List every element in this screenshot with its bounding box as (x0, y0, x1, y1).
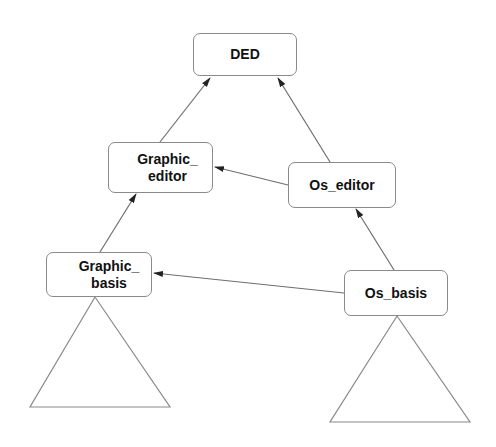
node-graphic-basis: Graphic_ basis (46, 252, 152, 297)
node-graphic-editor: Graphic_ editor (108, 142, 213, 193)
node-graphic-basis-label: Graphic_ basis (59, 258, 140, 292)
edge-os-basis-to-os-editor (356, 209, 394, 270)
edge-os-basis-to-graphic-basis (154, 273, 344, 293)
node-ded: DED (193, 33, 297, 76)
edge-os-editor-to-ded (278, 78, 330, 162)
node-ded-label: DED (230, 46, 260, 63)
edge-os-editor-to-graphic-editor (215, 167, 288, 185)
edge-graphic-basis-to-graphic-editor (100, 194, 136, 252)
node-graphic-editor-label: Graphic_ editor (123, 151, 198, 185)
node-os-basis: Os_basis (344, 270, 448, 316)
subtree-triangle-graphic-basis (30, 297, 170, 407)
diagram: DED Graphic_ editor Os_editor Graphic_ b… (0, 0, 496, 447)
subtree-triangle-os-basis (330, 316, 470, 422)
edge-graphic-editor-to-ded (160, 78, 210, 142)
node-os-basis-label: Os_basis (365, 285, 427, 302)
node-os-editor-label: Os_editor (309, 177, 374, 194)
node-os-editor: Os_editor (288, 162, 396, 208)
